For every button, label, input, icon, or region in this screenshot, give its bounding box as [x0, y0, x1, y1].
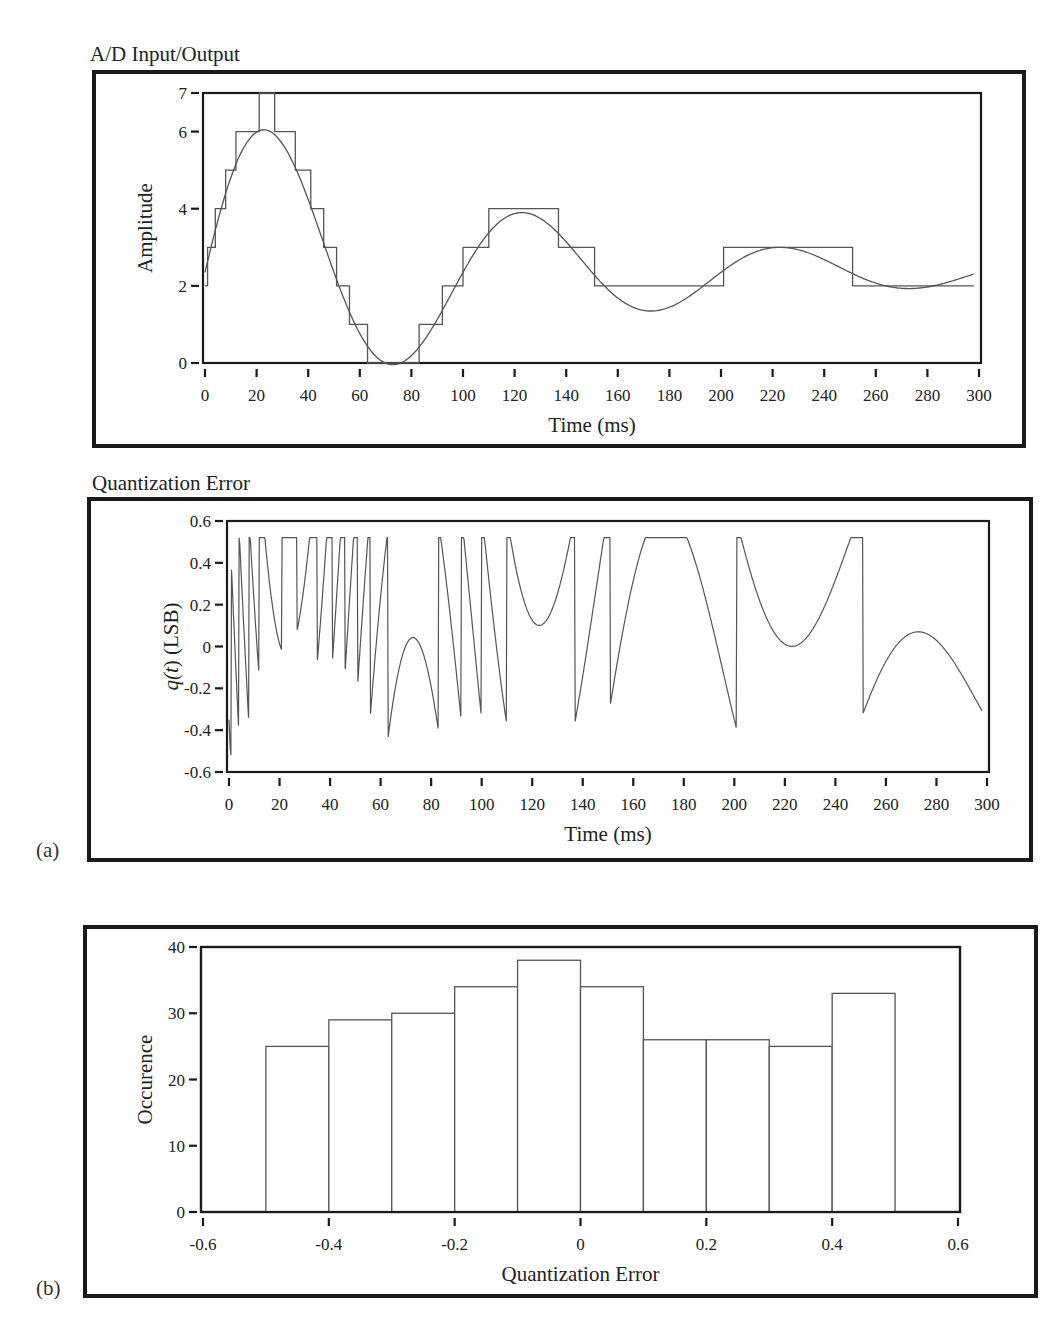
chart-hist: 010203040-0.6-0.4-0.200.20.40.6Quantizat…	[133, 938, 969, 1286]
x-tick-label: 40	[300, 386, 317, 405]
plot-area	[203, 93, 981, 363]
x-tick-label: 0.6	[947, 1235, 968, 1254]
x-tick-label: 220	[760, 386, 786, 405]
histogram-bar	[392, 1013, 455, 1212]
y-axis-label: Occurence	[133, 1035, 157, 1125]
y-label-suffix: ) (LSB)	[159, 602, 183, 667]
x-tick-label: 300	[974, 795, 1000, 814]
y-axis-label: q(t) (LSB)	[159, 602, 183, 690]
x-tick-label: 0.2	[696, 1235, 717, 1254]
histogram-bar	[581, 987, 644, 1212]
x-tick-label: 0	[225, 795, 234, 814]
x-tick-label: -0.4	[315, 1235, 342, 1254]
y-tick-label: 10	[168, 1137, 185, 1156]
quantization-error-curve	[229, 538, 982, 756]
histogram-bar	[266, 1046, 329, 1212]
plot-area	[227, 521, 989, 772]
x-tick-label: 220	[772, 795, 798, 814]
histogram-bar	[706, 1040, 769, 1212]
y-tick-label: 0	[203, 638, 212, 657]
y-tick-label: -0.6	[184, 763, 211, 782]
x-tick-label: -0.6	[190, 1235, 217, 1254]
chart-qerr: -0.6-0.4-0.200.20.40.6020406080100120140…	[159, 512, 1000, 846]
y-tick-label: 7	[179, 84, 188, 103]
histogram-bar	[832, 993, 895, 1212]
y-tick-label: 4	[179, 200, 188, 219]
x-tick-label: 40	[322, 795, 339, 814]
y-axis-label: Amplitude	[133, 183, 157, 273]
x-tick-label: 0.4	[822, 1235, 844, 1254]
x-tick-label: 0	[576, 1235, 585, 1254]
y-tick-label: 0.4	[190, 554, 212, 573]
y-tick-label: 30	[168, 1004, 185, 1023]
x-tick-label: 80	[423, 795, 440, 814]
x-tick-label: 140	[553, 386, 579, 405]
x-tick-label: 260	[863, 386, 889, 405]
quantized-output-staircase	[205, 93, 974, 363]
x-tick-label: 200	[722, 795, 748, 814]
y-tick-label: 0.2	[190, 596, 211, 615]
histogram-bar	[329, 1020, 392, 1212]
x-tick-label: 0	[201, 386, 210, 405]
y-tick-label: -0.4	[184, 721, 211, 740]
x-tick-label: 60	[351, 386, 368, 405]
y-tick-label: 6	[179, 123, 188, 142]
y-tick-label: 20	[168, 1071, 185, 1090]
x-tick-label: 300	[966, 386, 992, 405]
x-tick-label: 100	[469, 795, 495, 814]
charts-canvas: 0246702040608010012014016018020022024026…	[0, 0, 1064, 1323]
x-tick-label: 280	[924, 795, 950, 814]
x-tick-label: 160	[621, 795, 647, 814]
y-tick-label: 40	[168, 938, 185, 957]
histogram-bar	[769, 1046, 832, 1212]
x-tick-label: 20	[271, 795, 288, 814]
x-tick-label: 260	[873, 795, 899, 814]
y-tick-label: 2	[179, 277, 188, 296]
x-tick-label: 100	[450, 386, 476, 405]
x-tick-label: 160	[605, 386, 631, 405]
x-tick-label: 80	[403, 386, 420, 405]
x-tick-label: 280	[915, 386, 941, 405]
x-tick-label: 180	[657, 386, 683, 405]
x-tick-label: 60	[372, 795, 389, 814]
histogram-bar	[455, 987, 518, 1212]
y-tick-label: 0	[179, 354, 188, 373]
x-tick-label: -0.2	[441, 1235, 468, 1254]
x-tick-label: 180	[671, 795, 697, 814]
y-tick-label: 0.6	[190, 512, 211, 531]
x-tick-label: 120	[502, 386, 528, 405]
x-tick-label: 200	[708, 386, 734, 405]
histogram-bar	[518, 960, 581, 1212]
y-tick-label: -0.2	[184, 679, 211, 698]
x-tick-label: 140	[570, 795, 596, 814]
histogram-bar	[643, 1040, 706, 1212]
x-tick-label: 120	[519, 795, 545, 814]
x-tick-label: 240	[811, 386, 837, 405]
x-tick-label: 240	[823, 795, 849, 814]
x-axis-label: Time (ms)	[548, 413, 635, 437]
x-tick-label: 20	[248, 386, 265, 405]
x-axis-label: Quantization Error	[501, 1262, 659, 1286]
y-tick-label: 0	[177, 1203, 186, 1222]
x-axis-label: Time (ms)	[564, 822, 651, 846]
chart-ad: 0246702040608010012014016018020022024026…	[133, 84, 992, 437]
